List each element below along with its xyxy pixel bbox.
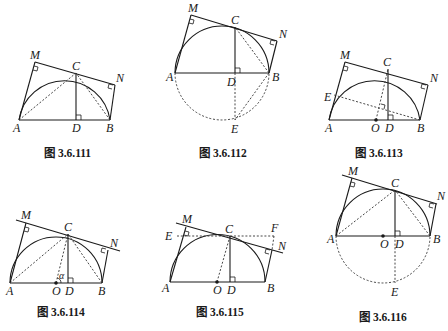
right-angle-d-icon	[230, 277, 235, 282]
segment-oc	[376, 69, 388, 120]
geometry-figures-canvas: M C N A D B 图 3.6.111 M C N A D B E 图 3.…	[0, 0, 448, 331]
label-c: C	[64, 220, 73, 234]
label-m: M	[187, 1, 199, 15]
right-angle-n-icon	[429, 203, 434, 208]
label-b: B	[272, 70, 280, 84]
segment-fn	[272, 236, 274, 250]
label-e: E	[230, 122, 239, 136]
label-e: E	[164, 229, 173, 243]
label-n: N	[429, 71, 439, 85]
label-o: O	[52, 284, 61, 298]
caption: 图 3.6.116	[359, 310, 407, 323]
label-a: A	[161, 281, 170, 295]
label-n: N	[277, 239, 287, 253]
label-c: C	[391, 176, 400, 190]
segment-ac	[336, 190, 395, 236]
figure-3-6-115: M C F N E A O D B 图 3.6.115	[161, 212, 287, 318]
label-a: A	[165, 70, 174, 84]
label-e: E	[323, 90, 332, 104]
right-angle-d-icon	[68, 278, 73, 283]
right-angle-n-icon	[265, 249, 270, 254]
segment-bn	[420, 85, 428, 120]
lower-semicircle-arc	[175, 73, 269, 120]
label-n: N	[109, 236, 119, 250]
label-c: C	[231, 13, 240, 27]
label-c: C	[225, 222, 234, 236]
segment-am	[329, 62, 345, 120]
caption: 图 3.6.111	[44, 146, 91, 159]
figure-3-6-111: M C N A D B 图 3.6.111	[12, 48, 125, 159]
segment-bn	[102, 250, 108, 283]
caption: 图 3.6.114	[37, 305, 85, 318]
segment-am	[336, 178, 352, 236]
label-a: A	[324, 121, 333, 135]
segment-bn	[110, 85, 115, 120]
label-o: O	[213, 283, 222, 297]
segment-bc	[76, 73, 110, 120]
label-m: M	[29, 48, 41, 62]
segment-ac	[19, 73, 76, 120]
right-angle-d-icon	[395, 231, 400, 236]
label-c: C	[72, 59, 81, 73]
right-angle-n-icon	[421, 84, 426, 89]
caption: 图 3.6.113	[355, 146, 403, 159]
label-n: N	[436, 189, 446, 203]
label-m: M	[347, 164, 359, 178]
figure-3-6-114: α M C N A O D B 图 3.6.114	[5, 208, 120, 318]
semicircle-arc	[10, 237, 102, 283]
label-o: O	[380, 237, 389, 251]
segment-am	[170, 227, 186, 282]
label-d: D	[71, 121, 81, 135]
label-n: N	[278, 27, 288, 41]
segment-oc	[217, 236, 230, 282]
label-d: D	[64, 284, 74, 298]
label-b: B	[417, 121, 425, 135]
right-angle-n-icon	[270, 40, 275, 45]
segment-be	[235, 73, 269, 120]
label-f: F	[270, 221, 279, 235]
right-angle-n-icon	[101, 248, 106, 253]
right-angle-d-icon	[235, 68, 240, 73]
caption: 图 3.6.115	[196, 305, 244, 318]
tangent-line	[342, 175, 437, 204]
label-a: A	[5, 284, 14, 298]
label-alpha: α	[59, 270, 65, 281]
label-e: E	[390, 285, 399, 299]
right-angle-d-icon	[388, 115, 393, 120]
segment-bc	[68, 234, 102, 283]
label-b: B	[98, 284, 106, 298]
caption: 图 3.6.112	[199, 146, 247, 159]
segment-am	[19, 62, 35, 120]
label-n: N	[115, 71, 125, 85]
right-angle-d-icon	[76, 115, 81, 120]
label-c: C	[383, 55, 392, 69]
figure-3-6-116: M C N A O D B E 图 3.6.116	[326, 164, 446, 323]
label-d: D	[384, 121, 394, 135]
label-b: B	[106, 121, 114, 135]
label-m: M	[20, 208, 32, 222]
label-o: O	[371, 121, 380, 135]
label-a: A	[12, 121, 21, 135]
segment-bn	[265, 250, 272, 282]
figure-3-6-113: M C N E A O D B 图 3.6.113	[323, 48, 439, 159]
semicircle-arc	[175, 26, 269, 73]
label-b: B	[433, 232, 441, 246]
right-angle-intersection-icon	[381, 104, 385, 109]
segment-bn	[269, 41, 277, 73]
label-d: D	[226, 75, 236, 89]
segment-am	[10, 223, 26, 283]
semicircle-arc	[170, 235, 265, 282]
segment-am	[175, 15, 191, 73]
label-b: B	[267, 281, 275, 295]
figure-3-6-112: M C N A D B E 图 3.6.112	[165, 1, 288, 159]
semicircle-arc	[336, 189, 430, 236]
label-m: M	[181, 212, 193, 226]
semicircle-arc	[329, 81, 420, 120]
right-angle-n-icon	[108, 84, 113, 89]
label-m: M	[339, 48, 351, 62]
label-a: A	[326, 232, 335, 246]
label-d: D	[394, 237, 404, 251]
label-d: D	[226, 283, 236, 297]
